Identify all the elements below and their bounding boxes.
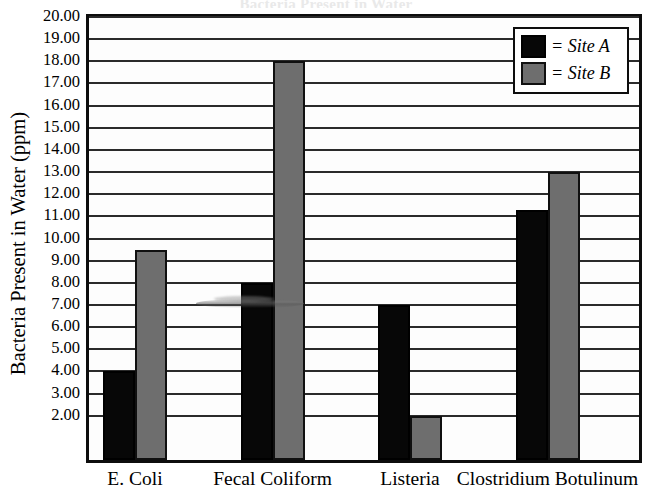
legend-label-site-a: = Site A [551,36,610,57]
bar-site-b-clostridium-botulinum [548,172,580,460]
x-tick-label: Listeria [380,468,440,490]
y-tick-label: 16.00 [8,97,80,114]
y-tick-label: 3.00 [8,385,80,402]
bar-chart: Bacteria Present in Water Bacteria Prese… [0,0,652,504]
legend: = Site A = Site B [513,27,629,94]
y-tick-label: 17.00 [8,74,80,91]
black-square-icon [521,35,546,58]
legend-item-site-b: = Site B [521,60,622,87]
y-tick-label: 9.00 [8,252,80,269]
y-tick-label: 11.00 [8,207,80,224]
y-tick-label: 15.00 [8,119,80,136]
x-tick-label: Clostridium Botulinum [457,468,638,490]
y-tick-label: 10.00 [8,230,80,247]
gridline [89,16,639,18]
y-tick-label: 12.00 [8,185,80,202]
bar-site-b-e-coli [135,250,167,460]
y-tick-label: 18.00 [8,52,80,69]
x-tick-label: E. Coli [107,468,162,490]
y-tick-label: 7.00 [8,296,80,313]
bar-site-b-fecal-coliform [273,61,305,460]
bar-site-b-listeria [410,416,442,460]
y-tick-label: 5.00 [8,340,80,357]
gridline [89,127,639,129]
legend-item-site-a: = Site A [521,33,622,60]
y-tick-label: 4.00 [8,362,80,379]
y-tick-label: 13.00 [8,163,80,180]
bar-site-a-fecal-coliform [241,283,273,460]
gridline [89,105,639,107]
bar-site-a-e-coli [103,371,135,460]
x-tick-label: Fecal Coliform [213,468,332,490]
y-tick-label: 14.00 [8,141,80,158]
gridline [89,149,639,151]
x-axis-tick-labels: E. ColiFecal ColiformListeriaClostridium… [86,468,642,500]
y-tick-label: 2.00 [8,407,80,424]
bar-site-a-listeria [378,305,410,460]
legend-label-site-b: = Site B [551,63,610,84]
y-tick-label: 20.00 [8,8,80,25]
y-tick-label: 19.00 [8,30,80,47]
bar-site-a-clostridium-botulinum [516,210,548,460]
y-tick-label: 8.00 [8,274,80,291]
gray-square-icon [521,62,546,85]
y-tick-label: 6.00 [8,318,80,335]
